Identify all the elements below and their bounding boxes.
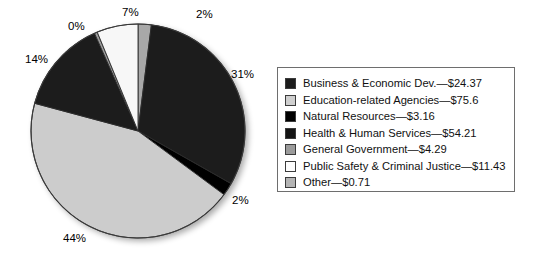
percent-label-education-related-agencies: 44% bbox=[63, 232, 86, 244]
swatch-business-economic-dev-icon bbox=[285, 78, 296, 89]
legend-item[interactable]: Education-related Agencies—$75.6 bbox=[285, 93, 510, 109]
percent-label-business-economic-dev: 31% bbox=[231, 68, 254, 80]
legend-item[interactable]: Other—$0.71 bbox=[285, 175, 510, 191]
percent-label-general-government: 0% bbox=[68, 20, 85, 32]
legend-item[interactable]: General Government—$4.29 bbox=[285, 142, 510, 158]
pie-chart-area: 2%31%2%44%14%0%7% bbox=[0, 0, 274, 254]
legend-item[interactable]: Health & Human Services—$54.21 bbox=[285, 126, 510, 142]
legend-item-label: Other—$0.71 bbox=[303, 176, 370, 189]
swatch-other-icon bbox=[285, 177, 296, 188]
legend-item-label: Education-related Agencies—$75.6 bbox=[303, 94, 478, 107]
legend-item[interactable]: Natural Resources—$3.16 bbox=[285, 109, 510, 125]
legend-item-label: Health & Human Services—$54.21 bbox=[303, 127, 477, 140]
legend-item-label: General Government—$4.29 bbox=[303, 143, 447, 156]
percent-label-health-human-services: 14% bbox=[25, 53, 48, 65]
percent-label-natural-resources: 2% bbox=[232, 194, 249, 206]
swatch-general-government-icon bbox=[285, 144, 296, 155]
swatch-health-human-services-icon bbox=[285, 128, 296, 139]
legend-item-label: Public Safety & Criminal Justice—$11.43 bbox=[303, 160, 506, 173]
swatch-education-related-agencies-icon bbox=[285, 95, 296, 106]
pie-chart-figure: 2%31%2%44%14%0%7% Business & Economic De… bbox=[0, 0, 534, 254]
legend-item-label: Natural Resources—$3.16 bbox=[303, 110, 435, 123]
legend-item[interactable]: Public Safety & Criminal Justice—$11.43 bbox=[285, 159, 510, 175]
pie-slices-group bbox=[31, 24, 245, 238]
pie-svg bbox=[0, 0, 274, 254]
swatch-natural-resources-icon bbox=[285, 111, 296, 122]
legend-box: Business & Economic Dev.—$24.37Education… bbox=[277, 67, 515, 192]
legend-item-label: Business & Economic Dev.—$24.37 bbox=[303, 77, 482, 90]
percent-label-other: 2% bbox=[196, 8, 213, 20]
legend-item[interactable]: Business & Economic Dev.—$24.37 bbox=[285, 76, 510, 92]
legend-list: Business & Economic Dev.—$24.37Education… bbox=[285, 76, 510, 192]
swatch-public-safety-criminal-justice-icon bbox=[285, 161, 296, 172]
percent-label-public-safety-criminal-justice: 7% bbox=[122, 6, 139, 18]
